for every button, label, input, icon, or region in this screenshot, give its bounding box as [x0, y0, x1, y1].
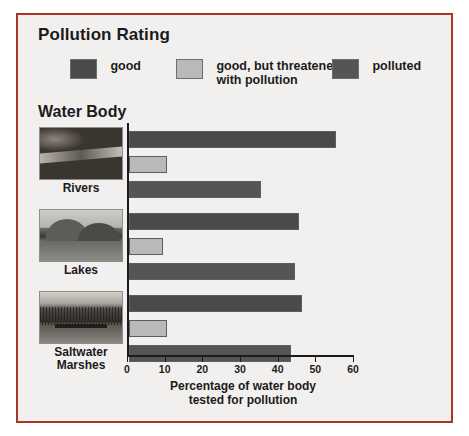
legend-label-polluted: polluted — [372, 59, 421, 73]
thumbnail-caption-rivers: Rivers — [39, 182, 123, 195]
x-axis-tick-label: 30 — [234, 363, 246, 375]
x-axis-tick — [278, 355, 279, 362]
marsh-photo — [39, 291, 123, 344]
x-axis-tick — [353, 355, 354, 362]
legend-label-threatened-line1: good, but threatened — [216, 59, 340, 73]
x-axis-tick-label: 40 — [272, 363, 284, 375]
x-axis-tick-label: 50 — [309, 363, 321, 375]
thumbnail-group-lakes: Lakes — [39, 209, 123, 277]
bar — [129, 156, 167, 173]
x-axis-tick-label: 20 — [196, 363, 208, 375]
legend-item-threatened: good, but threatened with pollution — [176, 59, 341, 87]
river-photo — [39, 127, 123, 180]
x-axis-label-line1: Percentage of water body — [170, 379, 316, 393]
lake-photo — [39, 209, 123, 262]
x-axis-tick — [202, 355, 203, 362]
legend-label-threatened: good, but threatened with pollution — [216, 59, 340, 87]
x-axis-tick — [165, 355, 166, 362]
plot-area — [127, 123, 349, 355]
bar — [129, 345, 291, 362]
thumbnail-group-rivers: Rivers — [39, 127, 123, 195]
bar — [129, 213, 299, 230]
chart-frame: Pollution Rating good good, but threaten… — [16, 13, 453, 423]
x-axis-label-line2: tested for pollution — [189, 393, 298, 407]
x-axis-tick — [240, 355, 241, 362]
legend-swatch-good — [70, 59, 97, 79]
legend-item-polluted: polluted — [332, 59, 421, 79]
bar — [129, 263, 295, 280]
category-header: Water Body — [38, 103, 126, 121]
bar — [129, 320, 167, 337]
x-axis-label: Percentage of water body tested for poll… — [127, 379, 359, 407]
x-axis-tick-label: 60 — [347, 363, 359, 375]
legend-title: Pollution Rating — [38, 25, 170, 45]
thumbnail-caption-saltwater-marshes: Saltwater Marshes — [39, 346, 123, 372]
bar — [129, 181, 261, 198]
x-axis-tick — [127, 355, 128, 362]
thumbnail-group-saltwater-marshes: Saltwater Marshes — [39, 291, 123, 372]
legend-swatch-polluted — [332, 59, 359, 79]
legend-item-good: good — [70, 59, 141, 79]
thumbnail-caption-line2: Marshes — [57, 358, 106, 372]
x-axis-tick-label: 10 — [159, 363, 171, 375]
x-axis-tick — [315, 355, 316, 362]
bar — [129, 238, 163, 255]
x-axis-tick-label: 0 — [124, 363, 130, 375]
thumbnail-caption-lakes: Lakes — [39, 264, 123, 277]
bar — [129, 131, 336, 148]
legend: Pollution Rating good good, but threaten… — [32, 25, 436, 93]
bar — [129, 295, 302, 312]
legend-label-good: good — [110, 59, 141, 73]
legend-label-threatened-line2: with pollution — [216, 73, 297, 87]
thumbnail-caption-line1: Saltwater — [54, 345, 107, 359]
legend-swatch-threatened — [176, 59, 203, 79]
